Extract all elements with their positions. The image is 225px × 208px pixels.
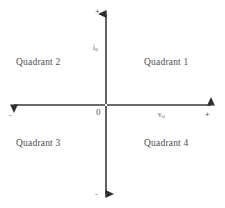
horizontal-axis-negative-sign: - xyxy=(9,111,12,119)
axis-var-sub-o-h: o xyxy=(162,113,165,119)
origin-label: 0 xyxy=(96,108,101,117)
vertical-axis-label-io: io xyxy=(93,44,98,52)
vertical-axis-negative-sign: - xyxy=(95,190,98,198)
quadrant-label-4: Quadrant 4 xyxy=(144,139,188,149)
horizontal-axis-label-vo: vo xyxy=(158,111,165,119)
quadrant-diagram: Quadrant 1 Quadrant 2 Quadrant 3 Quadran… xyxy=(0,0,225,208)
quadrant-label-3: Quadrant 3 xyxy=(16,139,60,149)
axis-var-sub-o: o xyxy=(95,46,98,52)
vertical-axis-positive-sign: + xyxy=(95,8,100,16)
axes-graphic xyxy=(0,0,225,208)
quadrant-label-1: Quadrant 1 xyxy=(144,58,188,68)
horizontal-axis-positive-sign: + xyxy=(205,111,210,119)
quadrant-label-2: Quadrant 2 xyxy=(16,58,60,68)
